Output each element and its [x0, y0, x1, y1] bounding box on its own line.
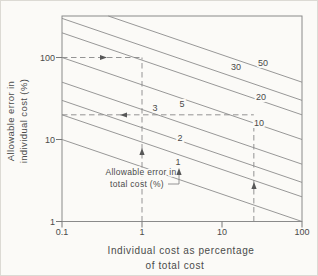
x-axis-title-line-2: of total cost: [146, 260, 205, 271]
x-tick-label-10: 10: [217, 227, 227, 237]
contour-label-2: 2: [177, 133, 182, 143]
x-axis-title-line-1: Individual cost as percentage: [108, 245, 255, 256]
contour-label-5: 5: [179, 99, 184, 109]
scanned-chart-figure: 0.1110100110100123510203050Allowable err…: [0, 0, 318, 276]
contour-label-3: 3: [152, 103, 157, 113]
y-tick-label-10: 10: [45, 135, 55, 145]
x-tick-label-1: 1: [139, 227, 144, 237]
y-axis-title-line-2: individual cost (%): [18, 79, 29, 164]
contour-label-30: 30: [231, 62, 241, 72]
cost-error-log-chart: 0.1110100110100123510203050Allowable err…: [1, 1, 318, 276]
total-cost-annotation-line-1: Allowable error in: [105, 167, 176, 177]
guide-arrow-right: [100, 55, 107, 60]
y-axis-title-line-1: Allowable error in: [5, 81, 16, 162]
y-tick-label-1: 1: [50, 217, 55, 227]
y-tick-label-100: 100: [40, 53, 55, 63]
contour-label-50: 50: [258, 58, 268, 68]
contour-line-50: [108, 16, 302, 82]
contour-label-1: 1: [175, 157, 180, 167]
total-cost-annotation-line-2: total cost (%): [110, 179, 164, 189]
contour-label-20: 20: [256, 92, 266, 102]
plot-box: [62, 16, 302, 222]
contour-label-10: 10: [254, 118, 264, 128]
x-tick-label-100: 100: [294, 227, 309, 237]
x-tick-label-0.1: 0.1: [56, 227, 69, 237]
guide-arrow-up: [251, 182, 256, 189]
guide-arrow-left: [120, 112, 127, 117]
guide-arrow-up: [139, 148, 144, 155]
guide-arrow-up: [176, 168, 181, 175]
